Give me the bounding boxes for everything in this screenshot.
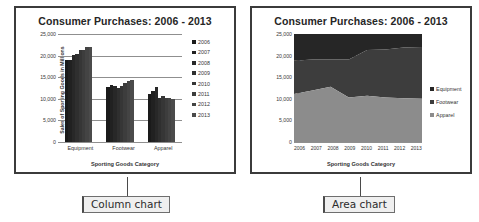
column-chart-x-axis-label: Sporting Goods Category [16,161,234,167]
legend-label: 2008 [198,60,210,66]
legend-item: 2006 [192,39,210,45]
legend-swatch-icon [192,71,196,75]
bar [171,99,174,142]
legend-swatch-icon [430,113,434,117]
legend-item: Footwear [430,99,461,105]
gridline [58,142,182,143]
legend-item: Equipment [430,86,461,92]
year-tick-label: 2012 [394,145,405,151]
legend-label: 2009 [198,70,210,76]
year-tick-label: 2011 [378,145,389,151]
y-tick-label: 0 [53,139,56,145]
column-chart-bar-groups [58,34,182,142]
y-tick-label: 5,000 [43,117,56,123]
year-tick-label: 2009 [344,145,355,151]
legend-swatch-icon [192,92,196,96]
column-chart-panel: Consumer Purchases: 2006 - 2013 Sales of… [14,6,236,174]
legend-label: Apparel [436,112,454,118]
year-tick-label: 2008 [327,145,338,151]
legend-label: 2013 [198,112,210,118]
bar [130,80,133,142]
area-chart-title: Consumer Purchases: 2006 - 2013 [252,15,470,27]
bar [89,47,92,142]
column-chart-legend: 20062007200820092010201120122013 [192,39,210,118]
legend-item: 2012 [192,101,210,107]
y-tick-label: 0 [289,139,292,145]
legend-label: Footwear [436,99,458,105]
column-chart-category-labels: EquipmentFootwearApparel [58,145,182,151]
legend-item: 2009 [192,70,210,76]
y-tick-label: 25,000 [40,31,56,37]
legend-label: Equipment [436,86,461,92]
legend-label: 2007 [198,49,210,55]
legend-swatch-icon [430,87,434,91]
y-tick-label: 20,000 [276,53,292,59]
area-chart-legend: EquipmentFootwearApparel [430,86,461,118]
legend-swatch-icon [192,113,196,117]
legend-item: 2013 [192,112,210,118]
legend-swatch-icon [430,100,434,104]
area-chart-panel: Consumer Purchases: 2006 - 2013 Sales of… [250,6,472,174]
year-tick-label: 2007 [311,145,322,151]
year-tick-label: 2010 [361,145,372,151]
y-tick-label: 15,000 [40,74,56,80]
area-chart-callout: Area chart [323,196,395,213]
area-chart-series-svg [294,34,422,142]
legend-item: 2011 [192,91,210,97]
legend-label: 2012 [198,101,210,107]
legend-item: 2008 [192,60,210,66]
column-chart-y-ticks: 25,00020,00015,00010,0005,0000 [28,34,56,142]
category-label: Footwear [112,145,134,151]
area-chart-x-axis-label: Sporting Goods Category [252,161,470,167]
y-tick-label: 15,000 [276,74,292,80]
legend-label: 2011 [198,91,209,97]
column-chart-title: Consumer Purchases: 2006 - 2013 [16,15,234,27]
gridline [294,142,422,143]
category-label: Apparel [154,145,173,151]
legend-swatch-icon [192,61,196,65]
legend-item: 2007 [192,49,210,55]
area-chart-y-ticks: 25,00020,00015,00010,0005,0000 [264,34,292,142]
area-chart-leader-line [360,177,361,196]
legend-label: 2006 [198,39,210,45]
legend-swatch-icon [192,82,196,86]
legend-item: 2010 [192,81,210,87]
y-tick-label: 10,000 [276,96,292,102]
y-tick-label: 20,000 [40,53,56,59]
legend-label: 2010 [198,81,210,87]
legend-swatch-icon [192,51,196,55]
year-tick-label: 2013 [411,145,422,151]
legend-swatch-icon [192,103,196,107]
legend-swatch-icon [192,40,196,44]
y-tick-label: 10,000 [40,96,56,102]
column-chart-plot-area [58,34,182,142]
column-chart-callout: Column chart [82,196,170,213]
bar-group [148,34,175,142]
column-chart-leader-line [127,177,128,196]
bar-group [106,34,133,142]
area-chart-x-tick-labels: 20062007200820092010201120122013 [294,145,422,151]
area-chart-plot-area [294,34,422,142]
y-tick-label: 25,000 [276,31,292,37]
legend-item: Apparel [430,112,461,118]
year-tick-label: 2006 [294,145,305,151]
category-label: Equipment [68,145,94,151]
bar-group [65,34,92,142]
y-tick-label: 5,000 [279,117,292,123]
